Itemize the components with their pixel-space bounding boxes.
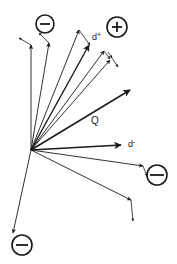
vector-diagram: Q d+ d- [0, 0, 177, 264]
kink-arrow-v6 [112, 58, 118, 67]
kink-arrow-v3 [79, 30, 90, 45]
label-d-plus-sup: + [97, 31, 101, 38]
kink-arrows [19, 30, 147, 221]
label-d-plus: d+ [92, 31, 101, 42]
charge-pos-top-right [107, 17, 127, 37]
charge-neg-right [147, 165, 167, 185]
label-q: Q [91, 115, 99, 126]
vector-arrow-q [31, 90, 130, 150]
kink-arrow-v2 [39, 33, 49, 43]
vector-arrow-v6 [31, 60, 110, 150]
kink-arrow-v10 [131, 200, 133, 221]
vector-arrow-v5 [31, 51, 104, 150]
label-d-minus: d- [128, 138, 136, 149]
vector-arrow-v11 [13, 150, 31, 233]
vector-arrow-v3 [31, 30, 79, 150]
vector-rays [13, 30, 143, 233]
vector-arrow-d-minus [31, 145, 121, 150]
kink-arrow-v1 [19, 38, 31, 45]
kink-arrow-v5 [104, 51, 110, 59]
label-d-minus-sup: - [133, 138, 136, 145]
charge-neg-bottom-left [12, 235, 32, 255]
charge-neg-top [36, 15, 54, 33]
